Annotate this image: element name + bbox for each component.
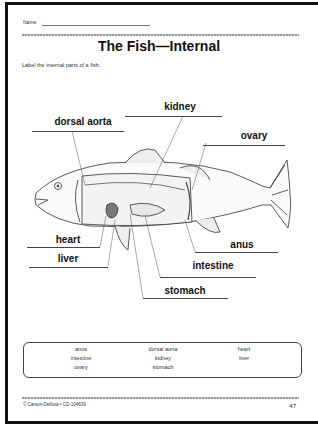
copyright: © Carson-Dellosa • CD-104639 bbox=[23, 402, 86, 407]
answer-line-kidney[interactable] bbox=[125, 116, 222, 117]
word-bank-item: anus bbox=[41, 346, 121, 352]
answer-line-heart[interactable] bbox=[27, 247, 100, 248]
answer-line-ovary[interactable] bbox=[203, 145, 285, 146]
label-liver: liver bbox=[48, 253, 88, 264]
word-bank-item: intestine bbox=[41, 355, 121, 361]
label-anus: anus bbox=[222, 239, 262, 250]
label-kidney: kidney bbox=[145, 101, 215, 112]
label-dorsal-aorta: dorsal aorta bbox=[38, 116, 128, 127]
answer-line-liver[interactable] bbox=[29, 267, 108, 268]
label-ovary: ovary bbox=[224, 130, 284, 141]
word-bank-item: dorsal aorta bbox=[123, 346, 203, 352]
label-intestine: intestine bbox=[183, 260, 243, 271]
word-bank-item: ovary bbox=[41, 364, 121, 370]
label-heart: heart bbox=[43, 234, 93, 245]
word-bank-item: liver bbox=[204, 355, 284, 361]
answer-line-dorsal-aorta[interactable] bbox=[32, 131, 124, 132]
word-bank-item: kidney bbox=[123, 355, 203, 361]
answer-line-anus[interactable] bbox=[195, 252, 278, 253]
word-bank-item: stomach bbox=[123, 364, 203, 370]
answer-line-stomach[interactable] bbox=[143, 298, 228, 299]
word-bank: anus dorsal aorta heart intestine kidney… bbox=[23, 342, 302, 378]
word-bank-item: heart bbox=[204, 346, 284, 352]
footer-divider bbox=[22, 397, 299, 399]
page-number: 47 bbox=[289, 403, 296, 409]
label-stomach: stomach bbox=[160, 285, 210, 296]
answer-line-intestine[interactable] bbox=[160, 277, 256, 278]
